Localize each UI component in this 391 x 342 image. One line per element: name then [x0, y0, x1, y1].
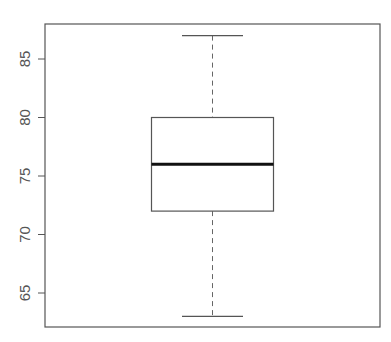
y-tick-label: 80	[16, 109, 33, 126]
y-tick-label: 75	[16, 168, 33, 185]
y-tick-label: 70	[16, 226, 33, 243]
boxplot-chart: 6570758085	[0, 0, 391, 342]
y-tick-label: 85	[16, 51, 33, 68]
y-tick-label: 65	[16, 285, 33, 302]
